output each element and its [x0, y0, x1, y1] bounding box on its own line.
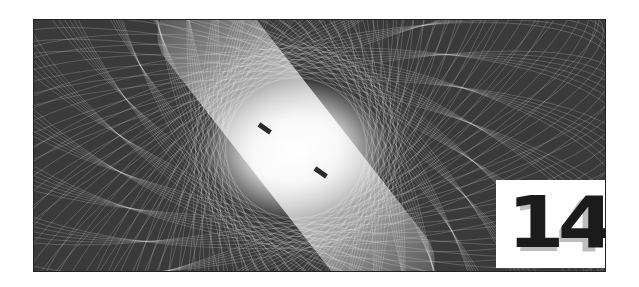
- number-badge: 14 14: [496, 180, 606, 268]
- badge-number: 14: [507, 186, 606, 258]
- artwork-frame: 14 14: [33, 19, 606, 272]
